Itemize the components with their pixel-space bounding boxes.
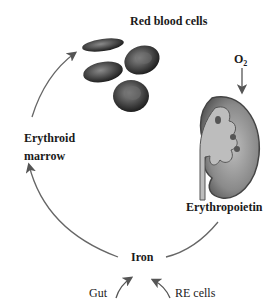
- arrow-epo-to-iron: [166, 222, 218, 257]
- arrow-iron-to-marrow: [29, 165, 118, 257]
- label-gut: Gut: [89, 286, 107, 301]
- arrow-marrow-to-rbc: [32, 53, 75, 117]
- arrow-re-cells: [153, 280, 170, 298]
- arrow-gut: [116, 278, 131, 298]
- o2-text: O: [234, 52, 243, 66]
- label-erythropoietin: Erythropoietin: [186, 200, 262, 215]
- label-iron: Iron: [131, 250, 153, 265]
- label-marrow: marrow: [24, 149, 65, 164]
- label-red-blood-cells: Red blood cells: [130, 14, 207, 29]
- o2-subscript: 2: [243, 59, 247, 68]
- red-blood-cells-image: [81, 36, 163, 112]
- label-erythroid: Erythroid: [24, 131, 75, 146]
- label-re-cells: RE cells: [175, 286, 215, 301]
- label-o2: O2: [234, 52, 247, 68]
- kidney-image: [200, 97, 259, 200]
